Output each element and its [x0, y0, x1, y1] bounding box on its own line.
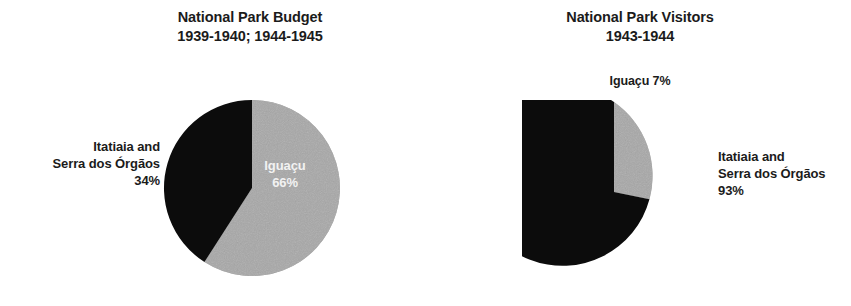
figure-two-pie-charts: National Park Budget 1939-1940; 1944-194…: [0, 0, 851, 306]
pie-label-visitors-itatiaia-line1: Itatiaia and: [718, 148, 851, 165]
pie-label-visitors-itatiaia-line2: Serra dos Órgãos: [718, 165, 851, 182]
chart-title-budget-subtitle: 1939-1940; 1944-1945: [100, 27, 400, 46]
pie-label-budget-iguacu-value: 66%: [240, 174, 330, 191]
pie-label-visitors-iguacu: Iguaçu 7%: [560, 73, 720, 90]
pie-chart-visitors-svg: [522, 100, 706, 284]
pie-label-budget-itatiaia: Itatiaia and Serra dos Órgãos 34%: [20, 138, 160, 189]
pie-label-budget-itatiaia-line1: Itatiaia and: [20, 138, 160, 155]
chart-title-budget: National Park Budget 1939-1940; 1944-194…: [100, 8, 400, 45]
pie-chart-visitors: [522, 100, 706, 284]
pie-label-visitors-itatiaia-value: 93%: [718, 182, 851, 199]
chart-title-visitors-main: National Park Visitors: [490, 8, 790, 27]
pie-label-budget-itatiaia-line2: Serra dos Órgãos: [20, 155, 160, 172]
pie-label-visitors-itatiaia: Itatiaia and Serra dos Órgãos 93%: [718, 148, 851, 199]
pie-label-budget-iguacu-name: Iguaçu: [240, 157, 330, 174]
pie-label-visitors-iguacu-text: Iguaçu 7%: [560, 73, 720, 90]
pie-label-budget-iguacu: Iguaçu 66%: [240, 157, 330, 191]
pie-label-budget-itatiaia-value: 34%: [20, 172, 160, 189]
chart-title-visitors-subtitle: 1943-1944: [490, 27, 790, 46]
chart-title-visitors: National Park Visitors 1943-1944: [490, 8, 790, 45]
pie-slice-visitors-iguacu-grain: [614, 102, 653, 199]
chart-title-budget-main: National Park Budget: [100, 8, 400, 27]
